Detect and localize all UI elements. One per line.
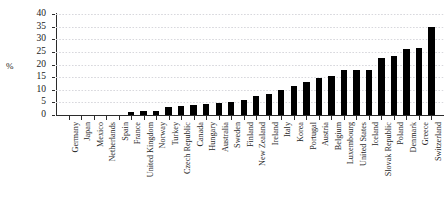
x-tick-mark	[244, 116, 245, 120]
bars-layer	[56, 14, 444, 115]
x-tick-mark	[206, 116, 207, 120]
bar	[190, 105, 196, 115]
x-tick-label: Netherlands	[109, 122, 117, 162]
x-tick-mark	[131, 116, 132, 120]
x-tick-mark	[156, 116, 157, 120]
x-tick-mark	[431, 116, 432, 120]
x-tick-label: Australia	[222, 122, 230, 152]
x-tick-label: Turkey	[172, 122, 180, 145]
x-tick-label: Germany	[72, 122, 80, 152]
x-tick-mark	[169, 116, 170, 120]
bar	[391, 56, 397, 115]
x-tick-label: Belgium	[335, 122, 343, 150]
bar	[178, 106, 184, 115]
y-tick-mark	[52, 27, 55, 28]
bar	[378, 58, 384, 115]
x-tick-label: Luxembourg	[347, 122, 355, 164]
x-tick-mark	[344, 116, 345, 120]
y-tick-mark	[52, 102, 55, 103]
x-tick-label: Norway	[159, 122, 167, 148]
bar	[128, 112, 134, 115]
bar	[328, 76, 334, 115]
x-tick-mark	[331, 116, 332, 120]
x-tick-label: Mexico	[97, 122, 105, 147]
x-tick-label: Austria	[322, 122, 330, 146]
x-tick-mark	[381, 116, 382, 120]
y-tick-label: 10	[37, 85, 47, 95]
x-tick-label: United States	[360, 122, 368, 166]
x-tick-mark	[419, 116, 420, 120]
y-tick-mark	[52, 65, 55, 66]
x-tick-label: Italy	[284, 122, 292, 137]
bar	[353, 70, 359, 115]
x-tick-mark	[369, 116, 370, 120]
bar	[253, 96, 259, 115]
x-tick-label: Greece	[422, 122, 430, 145]
x-tick-label: Iceland	[372, 122, 380, 146]
bar	[403, 49, 409, 115]
x-tick-label: Canada	[197, 122, 205, 147]
x-tick-label: Portugal	[310, 122, 318, 150]
x-tick-mark	[319, 116, 320, 120]
y-tick-mark	[52, 90, 55, 91]
bar	[416, 48, 422, 115]
x-tick-mark	[256, 116, 257, 120]
y-axis-tick-labels: 0510152025303540	[24, 0, 52, 206]
y-tick-label: 30	[37, 34, 47, 44]
x-tick-mark	[194, 116, 195, 120]
y-tick-mark	[52, 115, 55, 116]
x-tick-label: Czech Republic	[184, 122, 192, 174]
x-tick-label: Slovak Republic	[385, 122, 393, 176]
bar	[241, 100, 247, 115]
y-tick-label: 0	[41, 110, 46, 120]
bar	[203, 104, 209, 115]
x-axis-category-labels: GermanyJapanMexicoNetherlandsSpainFrance…	[56, 122, 444, 206]
bar	[291, 86, 297, 115]
y-tick-label: 20	[37, 60, 47, 70]
x-tick-label: New Zealand	[259, 122, 267, 166]
y-tick-label: 40	[37, 9, 47, 19]
bar-chart: % 0510152025303540 GermanyJapanMexicoNet…	[0, 0, 447, 206]
x-tick-mark	[81, 116, 82, 120]
x-tick-label: Korea	[297, 122, 305, 142]
x-tick-mark	[94, 116, 95, 120]
x-tick-mark	[119, 116, 120, 120]
x-tick-mark	[231, 116, 232, 120]
bar	[278, 90, 284, 115]
x-tick-mark	[394, 116, 395, 120]
x-tick-mark	[144, 116, 145, 120]
bar	[153, 111, 159, 115]
bar	[228, 102, 234, 115]
x-tick-label: Poland	[397, 122, 405, 145]
x-tick-mark	[69, 116, 70, 120]
bar	[165, 107, 171, 115]
x-tick-label: Spain	[122, 122, 130, 141]
x-tick-mark	[106, 116, 107, 120]
x-tick-label: Japan	[84, 122, 92, 141]
bar	[303, 82, 309, 115]
bar	[266, 94, 272, 115]
x-axis-tick-marks	[56, 116, 444, 121]
x-tick-label: Hungary	[209, 122, 217, 151]
x-tick-label: Finland	[247, 122, 255, 147]
bar	[140, 111, 146, 115]
x-tick-label: Denmark	[410, 122, 418, 152]
x-tick-mark	[356, 116, 357, 120]
y-axis-label: %	[6, 61, 14, 71]
x-tick-mark	[294, 116, 295, 120]
x-tick-label: Ireland	[272, 122, 280, 145]
x-tick-mark	[219, 116, 220, 120]
x-tick-mark	[306, 116, 307, 120]
y-tick-label: 25	[37, 47, 47, 57]
x-tick-label: Sweden	[234, 122, 242, 148]
y-tick-mark	[52, 52, 55, 53]
y-tick-label: 15	[37, 72, 47, 82]
y-tick-mark	[52, 14, 55, 15]
x-tick-mark	[281, 116, 282, 120]
bar	[428, 27, 434, 115]
x-tick-mark	[269, 116, 270, 120]
y-tick-mark	[52, 77, 55, 78]
bar	[341, 70, 347, 115]
x-tick-label: Switzerland	[435, 122, 443, 161]
y-tick-label: 35	[37, 22, 47, 32]
